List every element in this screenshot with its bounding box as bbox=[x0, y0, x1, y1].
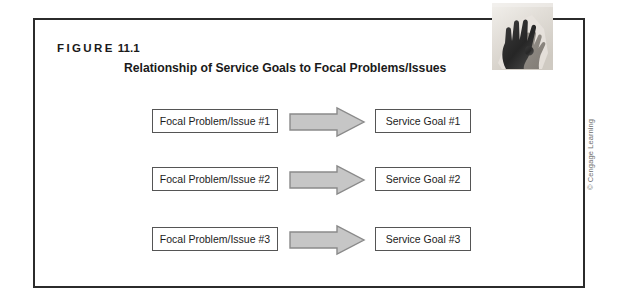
hands-photo bbox=[492, 3, 553, 70]
focal-problem-box: Focal Problem/Issue #2 bbox=[152, 167, 278, 191]
service-goal-box: Service Goal #3 bbox=[375, 227, 471, 251]
credit-line: © Cengage Learning bbox=[586, 90, 595, 190]
service-goal-box: Service Goal #1 bbox=[375, 109, 471, 133]
diagram-row: Focal Problem/Issue #1 Service Goal #1 bbox=[152, 109, 472, 135]
service-goal-box: Service Goal #2 bbox=[375, 167, 471, 191]
right-arrow-icon bbox=[288, 164, 366, 196]
diagram-row: Focal Problem/Issue #2 Service Goal #2 bbox=[152, 167, 472, 193]
diagram-row: Focal Problem/Issue #3 Service Goal #3 bbox=[152, 227, 472, 253]
focal-problem-box: Focal Problem/Issue #3 bbox=[152, 227, 278, 251]
focal-problem-box: Focal Problem/Issue #1 bbox=[152, 109, 278, 133]
right-arrow-icon bbox=[288, 224, 366, 256]
right-arrow-icon bbox=[288, 106, 366, 138]
figure-label: FIGURE11.1 bbox=[57, 42, 140, 54]
figure-title: Relationship of Service Goals to Focal P… bbox=[124, 61, 446, 75]
figure-label-number: 11.1 bbox=[118, 42, 140, 54]
figure-label-word: FIGURE bbox=[57, 42, 115, 54]
